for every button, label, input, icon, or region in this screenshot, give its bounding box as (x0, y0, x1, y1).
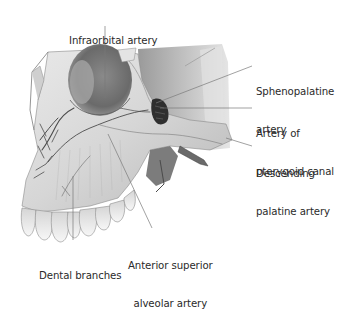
label-line: Artery of (256, 128, 334, 141)
label-line: Sphenopalatine (256, 86, 334, 99)
label-line: Dental branches (39, 270, 121, 283)
label-line: Infraorbital artery (69, 35, 158, 48)
label-line: alveolar artery (128, 298, 213, 311)
label-line: palatine artery (256, 206, 330, 219)
label-infraorbital-artery: Infraorbital artery (69, 10, 158, 73)
label-descending-palatine-artery: Descending palatine artery (256, 143, 330, 243)
label-line: Descending (256, 168, 330, 181)
pterygoid-plate (146, 146, 208, 192)
label-anterior-superior-alveolar-artery: Anterior superior alveolar artery (128, 235, 213, 313)
label-line: Anterior superior (128, 260, 213, 273)
label-dental-branches: Dental branches (39, 245, 121, 308)
